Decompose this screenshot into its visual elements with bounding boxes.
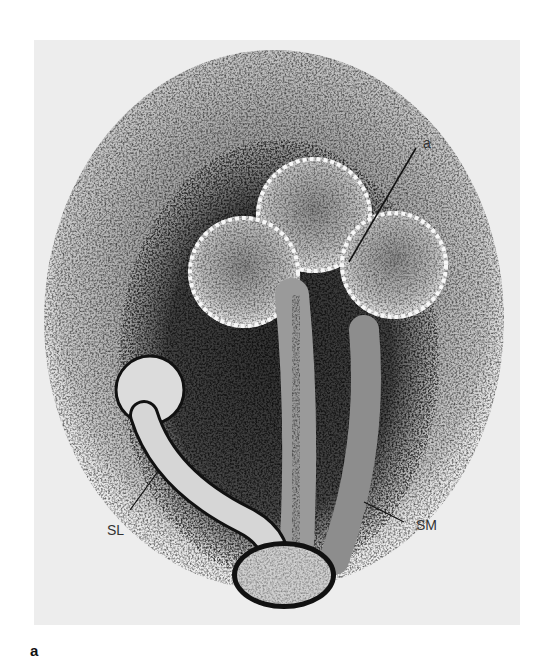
micrograph-figure: a SL SM [34, 40, 520, 625]
panel-label: a [30, 643, 38, 658]
label-a: a [423, 136, 431, 150]
label-sm: SM [416, 518, 437, 532]
label-sl: SL [107, 523, 124, 537]
